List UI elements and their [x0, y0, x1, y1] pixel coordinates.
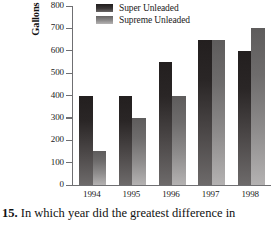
- bar-1998-supreme: [251, 28, 265, 185]
- y-axis-tick-label: 0: [36, 179, 64, 189]
- legend-swatch-supreme-icon: [96, 16, 113, 24]
- y-axis-tick-label: 300: [36, 112, 64, 122]
- legend-item-super: Super Unleaded: [96, 2, 216, 13]
- x-axis-label-1998: 1998: [230, 189, 270, 199]
- legend-label-supreme: Supreme Unleaded: [119, 15, 190, 25]
- bar-1994-supreme: [93, 151, 107, 185]
- y-axis-tick: [66, 50, 72, 51]
- legend-item-supreme: Supreme Unleaded: [96, 14, 216, 25]
- y-axis-tick: [66, 185, 72, 186]
- y-axis-tick-label: 800: [36, 0, 64, 10]
- legend-label-super: Super Unleaded: [119, 3, 179, 13]
- chart-legend: Super Unleaded Supreme Unleaded: [96, 2, 216, 26]
- bar-group-1995: [119, 6, 146, 185]
- bar-group-1996: [159, 6, 186, 185]
- bar-1996-super: [159, 62, 173, 185]
- y-axis-tick-label: 100: [36, 157, 64, 167]
- y-axis-tick-labels: 0100200300400500600700800: [34, 0, 64, 205]
- bar-1997-supreme: [212, 40, 226, 185]
- bar-1998-super: [238, 51, 252, 185]
- y-axis-tick-label: 600: [36, 45, 64, 55]
- bar-1996-supreme: [172, 96, 186, 186]
- bar-group-1997: [198, 6, 225, 185]
- plot-area: [72, 6, 270, 185]
- bar-1994-super: [79, 96, 93, 186]
- bar-1995-super: [119, 96, 133, 186]
- x-axis-line: [66, 185, 271, 186]
- x-axis-label-1995: 1995: [112, 189, 152, 199]
- y-axis-tick-label: 500: [36, 67, 64, 77]
- x-axis-label-1997: 1997: [191, 189, 231, 199]
- bar-1997-super: [198, 40, 212, 185]
- figure-caption: 15. In which year did the greatest diffe…: [2, 206, 274, 221]
- question-text: In which year did the greatest differenc…: [21, 206, 236, 220]
- y-axis-tick: [66, 140, 72, 141]
- y-axis-tick-label: 200: [36, 134, 64, 144]
- y-axis-tick: [66, 95, 72, 96]
- bar-group-1998: [238, 6, 265, 185]
- y-axis-tick-label: 700: [36, 22, 64, 32]
- x-axis-label-1996: 1996: [151, 189, 191, 199]
- bar-chart-figure: Gallons of Gasoline (in thousands) 01002…: [0, 0, 275, 205]
- bar-1995-supreme: [132, 118, 146, 185]
- legend-swatch-super-icon: [96, 4, 113, 12]
- question-number: 15.: [2, 206, 18, 220]
- y-axis-tick-label: 400: [36, 90, 64, 100]
- y-axis-tick: [66, 28, 72, 29]
- y-axis-tick: [66, 162, 72, 163]
- y-axis-tick: [66, 6, 72, 7]
- y-axis-tick: [66, 73, 72, 74]
- bar-group-1994: [79, 6, 106, 185]
- y-axis-tick: [66, 117, 72, 118]
- x-axis-label-1994: 1994: [72, 189, 112, 199]
